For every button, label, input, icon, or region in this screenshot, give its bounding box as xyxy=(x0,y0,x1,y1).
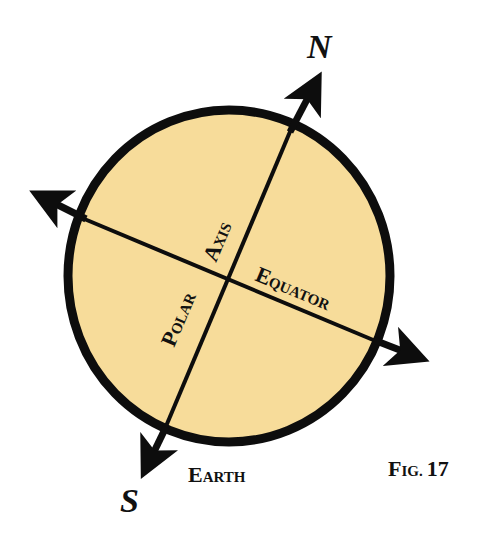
polar-axis-south-arrow xyxy=(150,427,166,460)
north-label: N xyxy=(306,28,333,65)
earth-diagram: N S AXIS POLAR EQUATOR EARTH FIG.17 xyxy=(0,0,491,542)
figure-number: FIG.17 xyxy=(388,456,449,481)
earth-caption: EARTH xyxy=(188,462,246,487)
south-label: S xyxy=(120,482,139,519)
